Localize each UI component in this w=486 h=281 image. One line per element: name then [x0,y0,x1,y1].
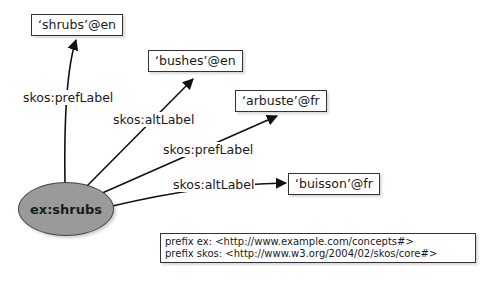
literal-arbuste-fr: ‘arbuste’@fr [235,90,327,112]
resource-node-ex-shrubs: ex:shrubs [18,182,114,236]
literal-shrubs-en: ‘shrubs’@en [31,14,123,36]
literal-buisson-fr: ‘buisson’@fr [288,173,380,195]
literal-bushes-en: ‘bushes’@en [148,50,243,72]
prefix-ex: prefix ex: <http://www.example.com/conce… [165,236,471,248]
edge-label-altlabel-1: skos:altLabel [112,112,195,127]
edge-label-preflabel-2: skos:prefLabel [162,142,254,157]
prefix-declarations: prefix ex: <http://www.example.com/conce… [160,233,476,263]
edge-label-preflabel-1: skos:prefLabel [22,90,114,105]
edge-label-altlabel-2: skos:altLabel [172,177,255,192]
edge-preflabel-shrubs [65,40,76,183]
resource-label: ex:shrubs [30,202,102,217]
prefix-skos: prefix skos: <http://www.w3.org/2004/02/… [165,248,471,260]
